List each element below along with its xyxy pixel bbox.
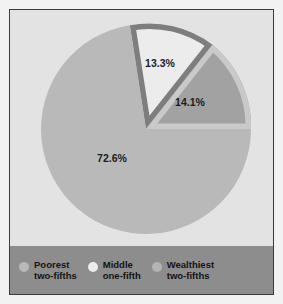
- pie-chart: 13.3% 14.1% 72.6%: [10, 10, 273, 244]
- legend-label-middle: Middle one-fifth: [103, 259, 141, 282]
- slice-value-label-middle: 14.1%: [175, 96, 205, 108]
- legend-label-middle-line1: Middle: [103, 259, 133, 270]
- legend-label-wealthiest: Wealthiest two-fifths: [167, 259, 214, 282]
- legend-label-middle-line2: one-fifth: [103, 270, 141, 282]
- legend-label-poorest-line2: two-fifths: [34, 270, 77, 282]
- legend-marker-icon-poorest: [19, 262, 29, 272]
- legend-item-wealthiest-two-fifths[interactable]: Wealthiest two-fifths: [152, 259, 214, 282]
- legend-item-middle-one-fifth[interactable]: Middle one-fifth: [88, 259, 141, 282]
- plot-area: 13.3% 14.1% 72.6%: [10, 10, 273, 244]
- legend-marker-icon-middle: [88, 262, 98, 272]
- legend-item-poorest-two-fifths[interactable]: Poorest two-fifths: [19, 259, 77, 282]
- legend-label-poorest-line1: Poorest: [34, 259, 69, 270]
- legend-label-poorest: Poorest two-fifths: [34, 259, 77, 282]
- slice-value-label-poorest: 13.3%: [145, 57, 175, 69]
- legend-label-wealthiest-line1: Wealthiest: [167, 259, 214, 270]
- chart-legend: Poorest two-fifths Middle one-fifth Weal…: [10, 246, 273, 294]
- chart-frame: 13.3% 14.1% 72.6% Poorest two-fifths Mid…: [9, 9, 274, 295]
- chart-figure: 13.3% 14.1% 72.6% Poorest two-fifths Mid…: [0, 0, 283, 304]
- legend-marker-icon-wealthiest: [152, 262, 162, 272]
- legend-label-wealthiest-line2: two-fifths: [167, 270, 214, 282]
- pie-chart-svg: 13.3% 14.1% 72.6%: [10, 10, 274, 244]
- slice-value-label-wealthiest: 72.6%: [97, 152, 127, 164]
